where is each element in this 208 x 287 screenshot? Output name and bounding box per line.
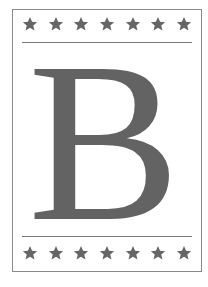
star-icon xyxy=(48,245,64,261)
star-icon xyxy=(125,245,141,261)
star-icon xyxy=(22,245,38,261)
bottom-star-row xyxy=(22,245,192,261)
star-icon xyxy=(176,245,192,261)
star-icon xyxy=(150,245,166,261)
star-icon xyxy=(73,245,89,261)
star-icon xyxy=(99,245,115,261)
bottom-divider xyxy=(22,236,192,237)
monogram-letter: B xyxy=(0,28,208,256)
